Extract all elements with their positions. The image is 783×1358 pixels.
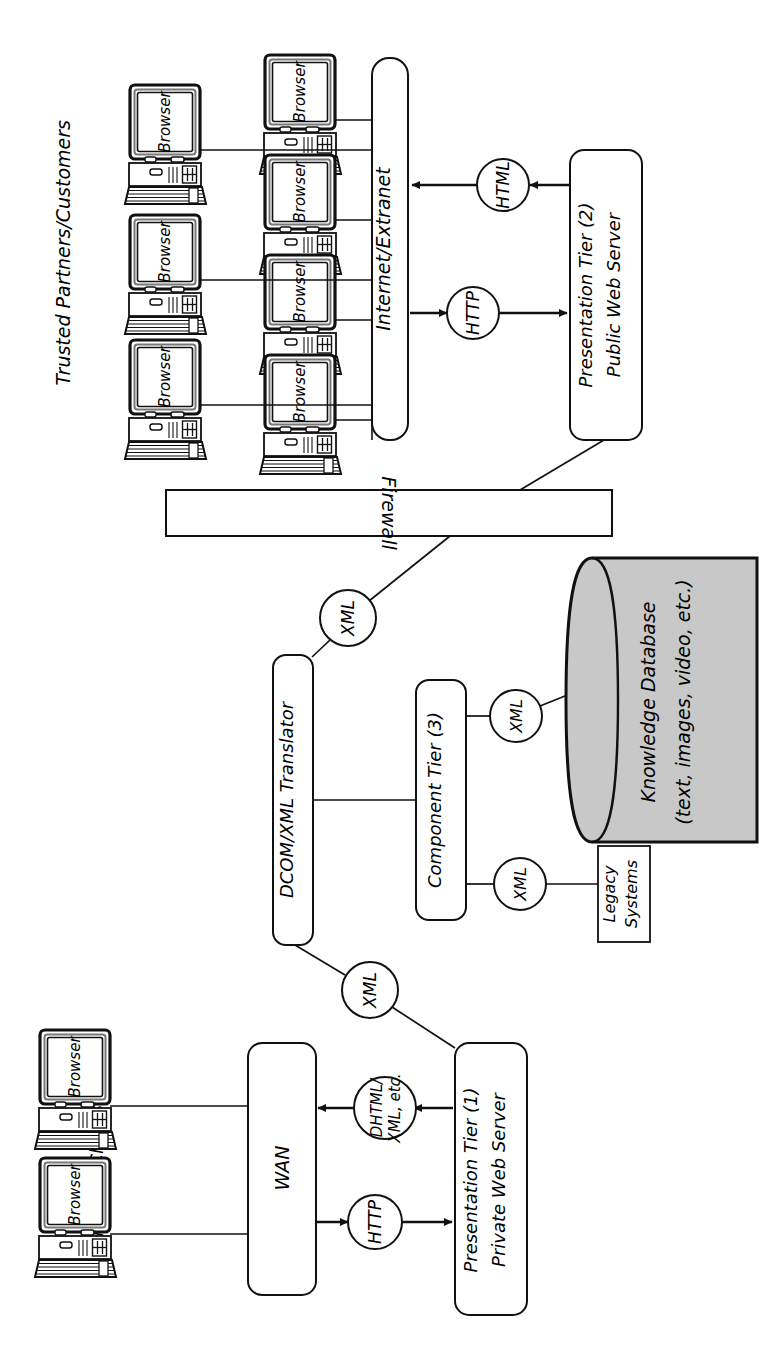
client-workstation: Browser	[125, 340, 206, 459]
presentation-tier-public-line2: Public Web Server	[603, 211, 624, 377]
browser-screen-label: Browser	[156, 346, 174, 408]
knowledge-database-line2: (text, images, video, etc.)	[672, 579, 694, 825]
client-workstation: Browser	[125, 215, 206, 334]
presentation-tier-private-line2: Private Web Server	[488, 1091, 509, 1266]
internet-extranet-node: Internet/Extranet	[372, 58, 408, 440]
browser-screen-label: Browser	[291, 361, 309, 423]
browser-screen-label: Browser	[66, 1164, 84, 1226]
presentation-tier-private-line1: Presentation Tier (1)	[460, 1087, 481, 1272]
protocol-http-public-label: HTTP	[463, 290, 483, 335]
protocol-http-private-label: HTTP	[365, 1199, 385, 1244]
knowledge-database-line1: Knowledge Database	[637, 601, 659, 802]
client-workstation: Browser	[35, 1158, 116, 1277]
browser-screen-label: Browser	[156, 91, 174, 153]
presentation-tier-public-node: Presentation Tier (2) Public Web Server	[570, 150, 642, 440]
architecture-diagram: Trusted Partners/Customers Internal Clie…	[0, 0, 783, 1358]
legacy-systems-node: Legacy Systems	[598, 846, 650, 942]
knowledge-database-node: Knowledge Database (text, images, video,…	[566, 558, 757, 842]
protocol-xml-private-label: XML	[360, 972, 380, 1009]
browser-screen-label: Browser	[291, 261, 309, 323]
protocol-xml-private: XML	[342, 962, 398, 1018]
browser-screen-label: Browser	[291, 61, 309, 123]
group-title-trusted: Trusted Partners/Customers	[52, 120, 74, 386]
protocol-xml-legacy-label: XML	[511, 867, 530, 902]
internet-extranet-label: Internet/Extranet	[372, 166, 394, 331]
component-tier-node: Component Tier (3)	[416, 680, 466, 920]
protocol-xml-database-label: XML	[507, 699, 526, 734]
dcom-xml-translator-label: DCOM/XML Translator	[276, 700, 297, 898]
protocol-dhtml-private-line1: DHTML/	[368, 1077, 386, 1137]
protocol-html-public-label: HTML	[493, 161, 513, 208]
presentation-tier-public-line1: Presentation Tier (2)	[575, 202, 596, 387]
wan-label: WAN	[271, 1145, 293, 1190]
browser-screen-label: Browser	[66, 1036, 84, 1098]
client-workstation: Browser	[35, 1030, 116, 1149]
protocol-xml-firewall: XML	[320, 590, 376, 646]
component-tier-label: Component Tier (3)	[424, 712, 445, 888]
client-workstation: Browser	[125, 85, 206, 204]
wan-node: WAN	[248, 1043, 316, 1295]
legacy-systems-line1: Legacy	[600, 865, 619, 923]
dcom-xml-translator-node: DCOM/XML Translator	[273, 655, 313, 945]
browser-screen-label: Browser	[291, 161, 309, 223]
protocol-xml-firewall-label: XML	[338, 600, 358, 637]
client-workstation: Browser	[260, 355, 341, 474]
legacy-systems-line2: Systems	[622, 860, 641, 928]
protocol-dhtml-private-line2: XML, etc.	[386, 1073, 404, 1143]
browser-screen-label: Browser	[156, 221, 174, 283]
presentation-tier-private-node: Presentation Tier (1) Private Web Server	[455, 1043, 527, 1315]
firewall-label: Firewall	[378, 476, 400, 550]
